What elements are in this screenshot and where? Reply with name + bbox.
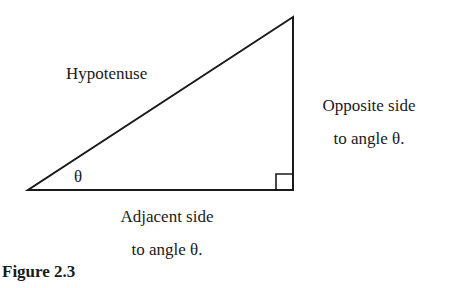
- angle-theta-label: θ: [74, 167, 82, 187]
- right-angle-marker: [276, 174, 293, 190]
- adjacent-side-label: Adjacent side to angle θ.: [96, 207, 238, 260]
- opposite-line-2: to angle θ.: [302, 129, 436, 149]
- figure-caption: Figure 2.3: [2, 262, 75, 282]
- adjacent-line-2: to angle θ.: [96, 240, 238, 260]
- hypotenuse-label: Hypotenuse: [66, 64, 147, 84]
- adjacent-line-1: Adjacent side: [96, 207, 238, 227]
- opposite-line-1: Opposite side: [302, 96, 436, 116]
- opposite-side-label: Opposite side to angle θ.: [302, 96, 436, 149]
